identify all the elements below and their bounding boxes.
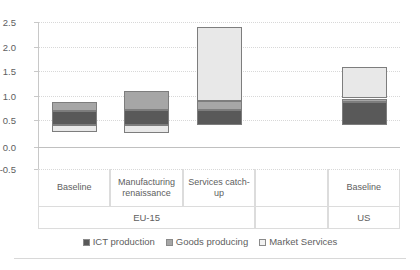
zero-baseline [38, 147, 400, 148]
group-label-eu15: EU-15 [38, 207, 255, 229]
stacked-bar-chart: 2.5 2.0 1.5 1.0 0.5 0.0 -0.5 Baseline [0, 0, 420, 270]
bar-segment-ict-production[interactable] [197, 110, 242, 125]
legend-label: ICT production [93, 237, 155, 247]
legend-label: Market Services [269, 237, 337, 247]
bar-segment-market-services[interactable] [124, 125, 169, 133]
y-tick-label-1_0: 1.0 [0, 92, 16, 102]
legend-swatch-icon [166, 239, 173, 246]
y-tick-mark-0_0 [34, 147, 38, 148]
bar-slot-empty [269, 0, 314, 147]
bar-eu15-manufacturing-renaissance[interactable] [124, 0, 169, 147]
category-label-manufacturing-renaissance: Manufacturing renaissance [110, 169, 182, 207]
bar-segment-market-services[interactable] [52, 125, 97, 132]
bar-segment-ict-production[interactable] [342, 102, 387, 125]
legend-item-ict-production[interactable]: ICT production [83, 237, 155, 247]
category-axis: Baseline Manufacturing renaissance Servi… [38, 169, 400, 229]
legend-item-goods-producing[interactable]: Goods producing [166, 237, 248, 247]
bar-segment-market-services[interactable] [197, 27, 242, 101]
footer-divider [14, 258, 406, 259]
group-label-empty [255, 207, 327, 229]
group-row: EU-15 US [38, 207, 400, 229]
legend-label: Goods producing [176, 237, 248, 247]
bar-segment-goods-producing[interactable] [124, 91, 169, 111]
y-tick-label-neg0_5: -0.5 [0, 165, 16, 175]
bar-us-baseline[interactable] [342, 0, 387, 147]
category-label-empty [255, 169, 327, 207]
y-tick-label-1_5: 1.5 [0, 67, 16, 77]
chart-legend: ICT production Goods producing Market Se… [0, 234, 420, 250]
y-tick-label-0_5: 0.5 [0, 116, 16, 126]
bar-eu15-services-catch-up[interactable] [197, 0, 242, 147]
category-label-baseline-eu: Baseline [38, 169, 110, 207]
y-tick-mark-1_0 [34, 96, 38, 97]
legend-swatch-icon [83, 239, 90, 246]
bar-segment-market-services[interactable] [342, 67, 387, 98]
bar-segment-ict-production[interactable] [124, 110, 169, 125]
bar-segment-goods-producing[interactable] [52, 102, 97, 112]
y-tick-mark-1_5 [34, 71, 38, 72]
legend-item-market-services[interactable]: Market Services [259, 237, 337, 247]
category-label-baseline-us: Baseline [328, 169, 400, 207]
bar-segment-ict-production[interactable] [52, 111, 97, 125]
bar-eu15-baseline[interactable] [52, 0, 97, 147]
y-tick-label-2_5: 2.5 [0, 18, 16, 28]
category-label-services-catch-up: Services catch-up [183, 169, 255, 207]
y-tick-mark-0_5 [34, 120, 38, 121]
category-row: Baseline Manufacturing renaissance Servi… [38, 169, 400, 207]
legend-swatch-icon [259, 239, 266, 246]
y-tick-label-2_0: 2.0 [0, 43, 16, 53]
group-label-us: US [328, 207, 400, 229]
y-tick-mark-2_0 [34, 47, 38, 48]
bar-segment-goods-producing[interactable] [197, 101, 242, 110]
bar-segment-goods-producing[interactable] [342, 99, 387, 103]
y-tick-label-0_0: 0.0 [0, 143, 16, 153]
y-tick-mark-2_5 [34, 22, 38, 23]
